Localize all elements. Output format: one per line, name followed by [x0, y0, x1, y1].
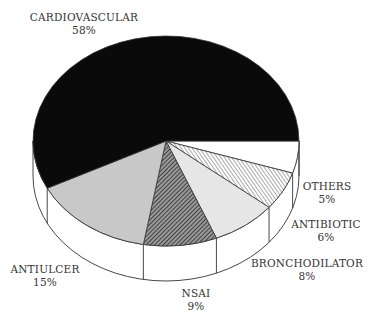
label-antibiotic-pct: 6%: [291, 231, 361, 244]
pie-top-face: [33, 36, 299, 246]
label-bronchodilator-name: BRONCHODILATOR: [251, 257, 363, 270]
label-nsai: NSAI 9%: [182, 287, 211, 313]
label-others: OTHERS 5%: [303, 180, 352, 206]
label-cardiovascular-pct: 58%: [30, 24, 138, 37]
label-others-name: OTHERS: [303, 180, 352, 193]
label-antiulcer-pct: 15%: [10, 276, 79, 289]
label-antibiotic: ANTIBIOTIC 6%: [291, 218, 361, 244]
label-antiulcer-name: ANTIULCER: [10, 263, 79, 276]
label-cardiovascular: CARDIOVASCULAR 58%: [30, 11, 138, 37]
label-bronchodilator: BRONCHODILATOR 8%: [251, 257, 363, 283]
label-antiulcer: ANTIULCER 15%: [10, 263, 79, 289]
label-bronchodilator-pct: 8%: [251, 270, 363, 283]
label-cardiovascular-name: CARDIOVASCULAR: [30, 11, 138, 24]
label-nsai-pct: 9%: [182, 300, 211, 313]
label-antibiotic-name: ANTIBIOTIC: [291, 218, 361, 231]
label-others-pct: 5%: [303, 193, 352, 206]
label-nsai-name: NSAI: [182, 287, 211, 300]
